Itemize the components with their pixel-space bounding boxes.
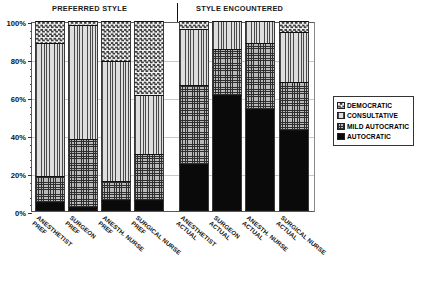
y-axis-minor-tick — [30, 46, 33, 47]
y-axis-tick — [28, 213, 32, 214]
legend-item-consultative[interactable]: CONSULTATIVE — [337, 111, 409, 122]
bar-segment-democratic — [68, 21, 98, 25]
legend-swatch-democratic — [337, 102, 345, 109]
bar-stack[interactable] — [212, 23, 242, 211]
bar-stack[interactable] — [101, 23, 131, 211]
legend-label: CONSULTATIVE — [347, 112, 398, 119]
legend-label: AUTOCRATIC — [347, 133, 391, 140]
legend-swatch-mild — [337, 123, 345, 130]
bar-segment-consultative — [212, 21, 242, 49]
y-axis-minor-tick — [30, 107, 33, 108]
y-axis-tick-label: 100% — [7, 19, 26, 28]
legend-label: DEMOCRATIC — [347, 102, 392, 109]
chart-root: PREFERRED STYLE STYLE ENCOUNTERED 100%80… — [0, 0, 425, 283]
bar-segment-democratic — [101, 21, 131, 61]
bar-segment-consultative — [35, 43, 65, 176]
bar-segment-mild-autocratic — [212, 49, 242, 96]
y-axis-minor-tick — [30, 183, 33, 184]
y-axis-tick-label: 40% — [11, 133, 26, 142]
chart-legend: DEMOCRATICCONSULTATIVEMILD AUTOCRATICAUT… — [333, 96, 414, 146]
plot-area: 100%80%60%40%20%0% — [31, 22, 315, 212]
y-axis-tick — [28, 137, 32, 138]
y-axis-minor-tick — [30, 152, 33, 153]
bar-segment-autocratic — [68, 207, 98, 211]
y-axis-minor-tick — [30, 190, 33, 191]
bar-segment-consultative — [245, 21, 275, 43]
y-axis-tick-label: 80% — [11, 57, 26, 66]
y-axis-tick-label: 0% — [15, 209, 26, 218]
y-axis-tick-label: 60% — [11, 95, 26, 104]
y-axis-minor-tick — [30, 122, 33, 123]
bar-segment-consultative — [101, 61, 131, 181]
bar-stack[interactable] — [35, 23, 65, 211]
y-axis-minor-tick — [30, 114, 33, 115]
bar-segment-autocratic — [134, 200, 164, 211]
y-axis-minor-tick — [30, 198, 33, 199]
y-axis-minor-tick — [30, 167, 33, 168]
y-axis-minor-tick — [30, 38, 33, 39]
y-axis-tick — [28, 99, 32, 100]
bar-segment-mild-autocratic — [179, 85, 209, 165]
bar-segment-autocratic — [35, 202, 65, 212]
bar-segment-autocratic — [101, 200, 131, 211]
bar-segment-consultative — [179, 29, 209, 85]
legend-swatch-autocratic — [337, 133, 345, 140]
bar-stack[interactable] — [68, 23, 98, 211]
bar-segment-democratic — [35, 21, 65, 43]
y-axis-minor-tick — [30, 145, 33, 146]
legend-item-mild[interactable]: MILD AUTOCRATIC — [337, 121, 409, 132]
bar-segment-consultative — [134, 95, 164, 154]
y-axis-tick-label: 20% — [11, 171, 26, 180]
bar-segment-democratic — [134, 21, 164, 95]
y-axis-tick — [28, 23, 32, 24]
y-axis-minor-tick — [30, 69, 33, 70]
legend-item-autocratic[interactable]: AUTOCRATIC — [337, 132, 409, 143]
y-axis-minor-tick — [30, 129, 33, 130]
bar-segment-consultative — [279, 32, 309, 81]
y-axis-tick — [28, 175, 32, 176]
bar-stack[interactable] — [179, 23, 209, 211]
bar-segment-autocratic — [179, 164, 209, 211]
y-axis-tick — [28, 61, 32, 62]
bar-segment-autocratic — [212, 95, 242, 211]
bar-stack[interactable] — [245, 23, 275, 211]
bar-segment-autocratic — [245, 109, 275, 211]
legend-swatch-consultative — [337, 112, 345, 119]
bar-segment-mild-autocratic — [134, 154, 164, 200]
y-axis-minor-tick — [30, 160, 33, 161]
legend-item-democratic[interactable]: DEMOCRATIC — [337, 100, 409, 111]
bar-stack[interactable] — [134, 23, 164, 211]
bar-segment-mild-autocratic — [35, 176, 65, 202]
bar-segment-mild-autocratic — [68, 139, 98, 207]
group-title-preferred: PREFERRED STYLE — [52, 4, 127, 13]
y-axis-minor-tick — [30, 205, 33, 206]
bar-segment-mild-autocratic — [101, 181, 131, 200]
y-axis-minor-tick — [30, 31, 33, 32]
y-axis-minor-tick — [30, 76, 33, 77]
group-title-encountered: STYLE ENCOUNTERED — [196, 4, 283, 13]
bar-segment-autocratic — [279, 130, 309, 211]
bar-stack[interactable] — [279, 23, 309, 211]
y-axis-minor-tick — [30, 84, 33, 85]
y-axis-minor-tick — [30, 91, 33, 92]
bar-segment-mild-autocratic — [279, 82, 309, 130]
legend-label: MILD AUTOCRATIC — [347, 123, 409, 130]
bar-segment-mild-autocratic — [245, 43, 275, 110]
bar-segment-democratic — [179, 21, 209, 29]
bar-segment-consultative — [68, 25, 98, 139]
bar-segment-democratic — [279, 21, 309, 32]
y-axis-minor-tick — [30, 53, 33, 54]
